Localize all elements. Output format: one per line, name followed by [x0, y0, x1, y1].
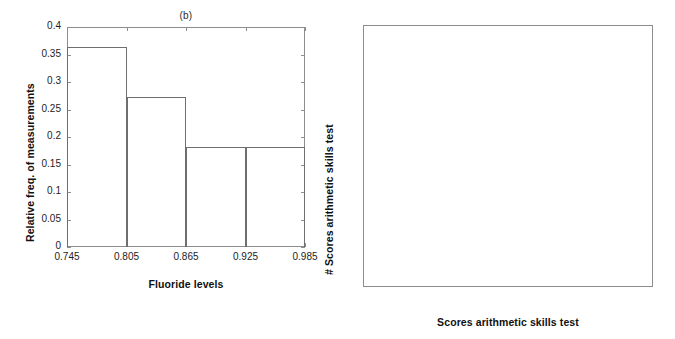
histogram-bar: [246, 147, 306, 247]
x-tick-label: 0.805: [102, 251, 152, 262]
plot-area-scores: [363, 25, 653, 287]
y-tick-mirror: [301, 247, 305, 248]
y-tick-label: 6: [647, 168, 675, 179]
x-axis-title-fluoride: Fluoride levels: [67, 278, 305, 290]
y-tick-label: 0.35: [19, 48, 61, 59]
y-axis-title-scores: # Scores arithmetic skills test: [323, 124, 335, 275]
chart-title-fluoride: (b): [67, 10, 305, 21]
y-tick-label: 0: [647, 280, 675, 291]
x-tick-label: 0.865: [161, 251, 211, 262]
figure-root: (b) 00.050.10.150.20.250.30.350.4 0.7450…: [0, 0, 675, 339]
x-tick-label: 0.745: [42, 251, 92, 262]
y-axis-title-fluoride: Relative freq. of measurements: [24, 83, 36, 242]
x-tick-mirror: [305, 27, 306, 31]
x-tick-mirror: [127, 27, 128, 31]
y-tick-mirror: [301, 137, 305, 138]
y-tick-label: 4: [647, 205, 675, 216]
y-tick: [67, 247, 71, 248]
histogram-bar: [186, 147, 246, 247]
y-tick-mirror: [301, 55, 305, 56]
x-tick-mirror: [246, 27, 247, 31]
chart-panel-fluoride: (b) 00.050.10.150.20.250.30.350.4 0.7450…: [0, 0, 332, 339]
x-axis-title-scores: Scores arithmetic skills test: [363, 316, 653, 328]
y-tick-label: 14: [647, 18, 675, 29]
x-tick-label: 0.925: [221, 251, 271, 262]
y-tick-label: 10: [647, 93, 675, 104]
y-tick-label: 8: [647, 130, 675, 141]
y-tick-label: 0.4: [19, 20, 61, 31]
y-tick-mirror: [301, 110, 305, 111]
histogram-bar: [127, 97, 187, 247]
chart-panel-scores: 02468101214 9111315171921232527 # Scores…: [332, 0, 675, 339]
x-tick: [305, 243, 306, 247]
y-tick-label: 12: [647, 55, 675, 66]
y-tick-mirror: [301, 82, 305, 83]
x-tick-mirror: [67, 27, 68, 31]
x-tick-mirror: [186, 27, 187, 31]
y-tick-label: 2: [647, 243, 675, 254]
histogram-bar: [67, 47, 127, 247]
